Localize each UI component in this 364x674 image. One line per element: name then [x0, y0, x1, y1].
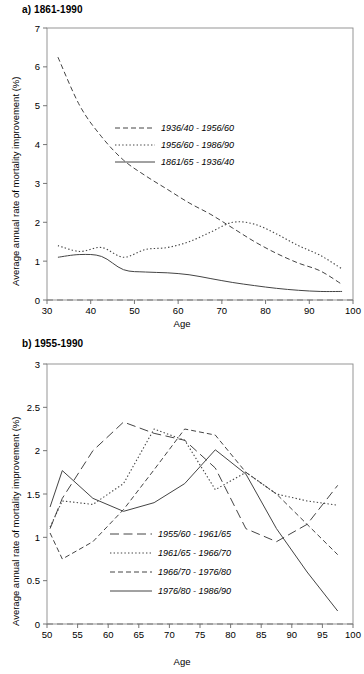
x-tick-label: 70: [164, 629, 175, 640]
x-tick-label: 50: [42, 629, 53, 640]
legend-label-2: 1961/65 - 1966/70: [158, 548, 231, 558]
y-tick-label: 1.5: [27, 489, 40, 500]
legend-label-4: 1976/80 - 1986/90: [158, 586, 231, 596]
y-tick-label: 0.5: [27, 575, 40, 586]
series-line-2: [58, 222, 342, 269]
x-tick-label: 95: [317, 629, 328, 640]
x-tick-label: 65: [134, 629, 145, 640]
x-tick-label: 75: [195, 629, 206, 640]
x-tick-label: 80: [225, 629, 236, 640]
y-tick-label: 3: [35, 359, 40, 370]
legend-label-1: 1936/40 - 1956/60: [161, 123, 234, 133]
chart-panel-b: b) 1955-1990 Average annual rate of mort…: [0, 334, 364, 674]
y-tick-label: 2.5: [27, 402, 40, 413]
x-tick-label: 80: [260, 305, 271, 316]
panel-b-plot: 5055606570758085909510000.511.522.531955…: [0, 334, 364, 674]
y-tick-label: 1: [35, 532, 40, 543]
x-tick-label: 100: [345, 629, 361, 640]
figure-root: a) 1861-1990 Average annual rate of mort…: [0, 0, 364, 674]
chart-panel-a: a) 1861-1990 Average annual rate of mort…: [0, 0, 364, 334]
legend-label-3: 1861/65 - 1936/40: [161, 157, 234, 167]
legend-label-2: 1956/60 - 1986/90: [161, 140, 234, 150]
x-tick-label: 40: [85, 305, 96, 316]
y-tick-label: 2: [35, 217, 40, 228]
legend-label-3: 1966/70 - 1976/80: [158, 567, 231, 577]
series-line-3: [58, 254, 342, 291]
y-tick-label: 2: [35, 445, 40, 456]
y-tick-label: 0: [35, 619, 40, 630]
series-line-1: [50, 422, 338, 542]
x-tick-label: 60: [103, 629, 114, 640]
series-line-1: [58, 57, 342, 284]
x-tick-label: 70: [217, 305, 228, 316]
x-tick-label: 60: [173, 305, 184, 316]
x-tick-label: 85: [256, 629, 267, 640]
panel-a-plot: 30405060708090100012345671936/40 - 1956/…: [0, 0, 364, 334]
x-tick-label: 90: [304, 305, 315, 316]
y-tick-label: 4: [35, 139, 40, 150]
x-tick-label: 30: [42, 305, 53, 316]
x-tick-label: 90: [287, 629, 298, 640]
x-tick-label: 50: [129, 305, 140, 316]
x-tick-label: 100: [345, 305, 361, 316]
y-tick-label: 3: [35, 178, 40, 189]
y-tick-label: 5: [35, 100, 40, 111]
plot-frame: [47, 364, 353, 624]
y-tick-label: 7: [35, 23, 40, 34]
y-tick-label: 0: [35, 295, 40, 306]
y-tick-label: 6: [35, 61, 40, 72]
x-tick-label: 55: [72, 629, 83, 640]
y-tick-label: 1: [35, 256, 40, 267]
legend-label-1: 1955/60 - 1961/65: [158, 529, 232, 539]
